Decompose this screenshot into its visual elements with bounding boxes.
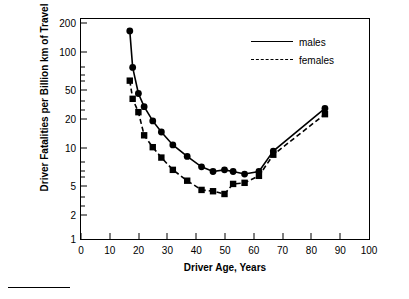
y-tick-label: 100 bbox=[59, 47, 76, 58]
scan-artifact-rule bbox=[8, 287, 70, 288]
series-line-females bbox=[130, 81, 325, 194]
x-tick-label: 20 bbox=[133, 245, 144, 256]
legend-label-females: females bbox=[299, 55, 334, 66]
y-axis-title: Driver Fatalities per Billion km of Trav… bbox=[39, 0, 50, 208]
chart-page: Driver Fatalities per Billion km of Trav… bbox=[0, 0, 409, 299]
data-point-females bbox=[141, 132, 147, 138]
data-point-females bbox=[184, 177, 190, 183]
data-point-males bbox=[230, 168, 237, 175]
data-point-females bbox=[241, 180, 247, 186]
data-point-males bbox=[241, 171, 248, 178]
legend-item-females: females bbox=[251, 51, 359, 69]
y-tick-label: 5 bbox=[70, 180, 76, 191]
data-point-females bbox=[322, 111, 328, 117]
data-point-males bbox=[198, 163, 205, 170]
legend-sample-females bbox=[251, 54, 293, 66]
data-point-males bbox=[210, 168, 217, 175]
x-tick-label: 90 bbox=[335, 245, 346, 256]
data-point-females bbox=[198, 187, 204, 193]
data-point-females bbox=[256, 173, 262, 179]
legend: males females bbox=[251, 33, 359, 69]
data-point-females bbox=[230, 181, 236, 187]
data-point-females bbox=[210, 188, 216, 194]
data-point-males bbox=[221, 166, 228, 173]
y-tick-label: 10 bbox=[65, 142, 76, 153]
data-point-males bbox=[158, 129, 165, 136]
legend-item-males: males bbox=[251, 33, 359, 51]
x-tick-label: 60 bbox=[248, 245, 259, 256]
y-tick-label: 2 bbox=[70, 209, 76, 220]
data-point-males bbox=[126, 27, 133, 34]
data-point-males bbox=[322, 105, 329, 112]
data-point-females bbox=[158, 154, 164, 160]
x-tick-label: 0 bbox=[78, 245, 84, 256]
legend-label-males: males bbox=[299, 37, 326, 48]
data-point-males bbox=[141, 103, 148, 110]
data-point-males bbox=[169, 142, 176, 149]
data-point-females bbox=[270, 152, 276, 158]
legend-sample-males bbox=[251, 36, 293, 48]
data-point-males bbox=[149, 117, 156, 124]
x-tick-label: 10 bbox=[104, 245, 115, 256]
y-tick-label: 20 bbox=[65, 114, 76, 125]
y-tick-label: 1 bbox=[70, 234, 76, 245]
data-point-males bbox=[129, 64, 136, 71]
data-point-females bbox=[221, 191, 227, 197]
data-point-females bbox=[170, 167, 176, 173]
y-tick-label: 50 bbox=[65, 85, 76, 96]
data-point-males bbox=[135, 90, 142, 97]
x-tick-label: 30 bbox=[162, 245, 173, 256]
x-tick-label: 100 bbox=[361, 245, 378, 256]
y-tick-label: 200 bbox=[59, 18, 76, 29]
x-axis-title: Driver Age, Years bbox=[80, 262, 370, 273]
data-point-females bbox=[135, 109, 141, 115]
data-point-females bbox=[150, 144, 156, 150]
x-tick-label: 40 bbox=[191, 245, 202, 256]
plot-area: 200 100 50 20 10 5 2 1 0 10 20 30 bbox=[80, 18, 370, 240]
data-point-males bbox=[184, 153, 191, 160]
x-tick-label: 70 bbox=[277, 245, 288, 256]
data-point-females bbox=[127, 77, 133, 83]
x-tick-label: 50 bbox=[219, 245, 230, 256]
data-point-females bbox=[129, 96, 135, 102]
x-tick-label: 80 bbox=[306, 245, 317, 256]
